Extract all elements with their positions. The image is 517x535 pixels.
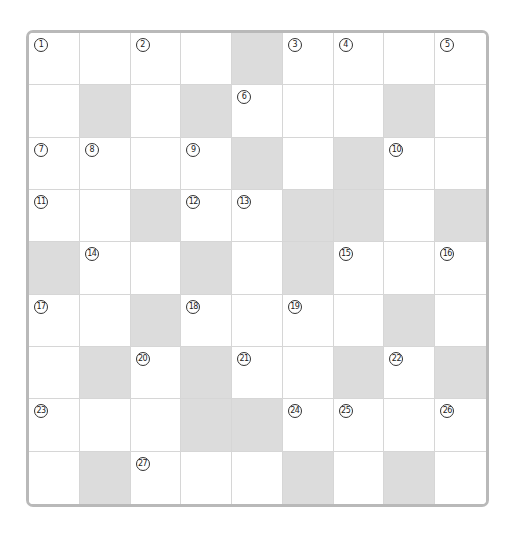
clue-number: 9 [186,143,200,157]
crossword-block-cell [232,138,283,190]
crossword-cell[interactable] [435,295,486,347]
crossword-cell[interactable] [232,295,283,347]
crossword-cell[interactable]: 10 [384,138,435,190]
crossword-cell[interactable]: 9 [181,138,232,190]
crossword-cell[interactable]: 4 [334,33,385,85]
crossword-block-cell [80,347,131,399]
crossword-block-cell [384,295,435,347]
crossword-cell[interactable] [29,347,80,399]
crossword-cell[interactable]: 14 [80,242,131,294]
crossword-cell[interactable] [283,138,334,190]
crossword-block-cell [435,347,486,399]
crossword-cell[interactable]: 22 [384,347,435,399]
clue-number: 3 [288,38,302,52]
clue-number: 21 [237,352,251,366]
crossword-cell[interactable]: 3 [283,33,334,85]
crossword-frame: 1234567891011121314151617181920212223242… [26,30,489,507]
crossword-cell[interactable]: 19 [283,295,334,347]
crossword-block-cell [131,295,182,347]
crossword-cell[interactable]: 27 [131,452,182,504]
crossword-cell[interactable] [131,399,182,451]
crossword-cell[interactable]: 26 [435,399,486,451]
crossword-cell[interactable]: 16 [435,242,486,294]
crossword-cell[interactable]: 12 [181,190,232,242]
crossword-block-cell [80,452,131,504]
clue-number: 13 [237,195,251,209]
crossword-cell[interactable] [131,242,182,294]
crossword-cell[interactable] [181,452,232,504]
crossword-block-cell [334,138,385,190]
crossword-cell[interactable] [283,347,334,399]
crossword-cell[interactable] [435,452,486,504]
crossword-cell[interactable] [283,85,334,137]
crossword-block-cell [384,452,435,504]
crossword-cell[interactable] [131,138,182,190]
crossword-cell[interactable] [435,138,486,190]
crossword-cell[interactable] [29,452,80,504]
crossword-cell[interactable] [334,295,385,347]
crossword-cell[interactable]: 8 [80,138,131,190]
crossword-cell[interactable]: 23 [29,399,80,451]
crossword-cell[interactable] [80,399,131,451]
clue-number: 7 [34,143,48,157]
clue-number: 6 [237,90,251,104]
crossword-block-cell [334,347,385,399]
clue-number: 12 [186,195,200,209]
crossword-cell[interactable] [334,85,385,137]
crossword-cell[interactable]: 5 [435,33,486,85]
clue-number: 24 [288,404,302,418]
crossword-cell[interactable] [435,85,486,137]
crossword-cell[interactable] [232,452,283,504]
crossword-cell[interactable] [384,33,435,85]
crossword-cell[interactable]: 21 [232,347,283,399]
clue-number: 26 [440,404,454,418]
crossword-block-cell [384,85,435,137]
crossword-cell[interactable] [232,242,283,294]
clue-number: 11 [34,195,48,209]
clue-number: 27 [136,457,150,471]
crossword-cell[interactable]: 18 [181,295,232,347]
clue-number: 18 [186,300,200,314]
crossword-cell[interactable]: 11 [29,190,80,242]
clue-number: 2 [136,38,150,52]
clue-number: 8 [85,143,99,157]
clue-number: 19 [288,300,302,314]
crossword-block-cell [232,33,283,85]
crossword-grid: 1234567891011121314151617181920212223242… [29,33,486,504]
crossword-block-cell [29,242,80,294]
crossword-block-cell [232,399,283,451]
crossword-cell[interactable]: 17 [29,295,80,347]
clue-number: 25 [339,404,353,418]
crossword-cell[interactable]: 13 [232,190,283,242]
crossword-cell[interactable]: 25 [334,399,385,451]
clue-number: 5 [440,38,454,52]
crossword-cell[interactable] [80,295,131,347]
crossword-cell[interactable]: 1 [29,33,80,85]
crossword-cell[interactable] [80,33,131,85]
crossword-cell[interactable] [131,85,182,137]
crossword-cell[interactable]: 7 [29,138,80,190]
crossword-block-cell [283,452,334,504]
crossword-cell[interactable]: 2 [131,33,182,85]
crossword-cell[interactable] [384,399,435,451]
crossword-cell[interactable] [181,33,232,85]
crossword-cell[interactable]: 15 [334,242,385,294]
crossword-cell[interactable] [384,242,435,294]
crossword-cell[interactable] [334,452,385,504]
crossword-cell[interactable]: 6 [232,85,283,137]
clue-number: 22 [389,352,403,366]
clue-number: 1 [34,38,48,52]
clue-number: 23 [34,404,48,418]
crossword-cell[interactable] [80,190,131,242]
clue-number: 10 [389,143,403,157]
clue-number: 20 [136,352,150,366]
crossword-block-cell [181,399,232,451]
crossword-block-cell [435,190,486,242]
crossword-cell[interactable] [384,190,435,242]
clue-number: 16 [440,247,454,261]
crossword-block-cell [131,190,182,242]
crossword-cell[interactable]: 20 [131,347,182,399]
crossword-cell[interactable] [29,85,80,137]
crossword-cell[interactable]: 24 [283,399,334,451]
crossword-block-cell [181,242,232,294]
